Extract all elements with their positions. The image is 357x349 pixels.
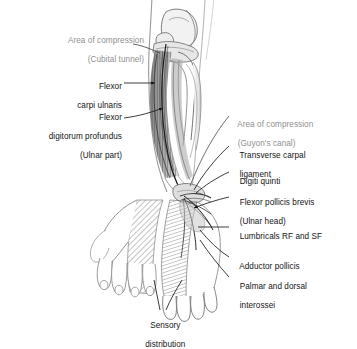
sensory-distribution-line1: Sensory <box>150 321 180 330</box>
label-sensory-distribution: Sensory distribution <box>123 311 203 349</box>
digiti-quinti-line1: Digiti quinti <box>240 177 281 186</box>
label-lumbricals: Lumbricals RF and SF <box>235 222 357 241</box>
label-adductor-pollicis: Adductor pollicis <box>235 252 351 271</box>
label-flexor-pollicis-brevis: Flexor pollicis brevis (Ulnar head) <box>235 188 355 226</box>
label-digiti-quinti: Digiti quinti <box>235 167 345 186</box>
label-area-of-compression-cubital-tunnel: Area of compression (Cubital tunnel) <box>14 26 144 64</box>
sensory-distribution-line2: distribution <box>145 340 185 349</box>
flexor-carpi-ulnaris-line1: Flexor <box>99 82 122 91</box>
cubital-tunnel-line2: (Cubital tunnel) <box>88 55 144 64</box>
fdp-line2: digitorum profundus <box>49 132 122 141</box>
forearm-illustration <box>149 0 214 203</box>
palmar-hand <box>90 200 163 297</box>
interossei-line1: Palmar and dorsal <box>240 282 307 291</box>
guyons-canal-line1: Area of compression <box>237 120 313 129</box>
fdp-line3: (Ulnar part) <box>80 151 122 160</box>
interossei-line2: interossei <box>240 301 276 310</box>
cubital-tunnel-line1: Area of compression <box>68 36 144 45</box>
label-flexor-digitorum-profundus: Flexor digitorum profundus (Ulnar part) <box>10 103 122 161</box>
fdp-line1: Flexor <box>99 113 122 122</box>
tcl-line1: Transverse carpal <box>240 151 306 160</box>
lumbricals-line1: Lumbricals RF and SF <box>240 232 322 241</box>
adductor-pollicis-line1: Adductor pollicis <box>239 262 299 271</box>
label-palmar-and-dorsal-interossei: Palmar and dorsal interossei <box>235 272 353 310</box>
fpb-line1: Flexor pollicis brevis <box>240 198 315 207</box>
